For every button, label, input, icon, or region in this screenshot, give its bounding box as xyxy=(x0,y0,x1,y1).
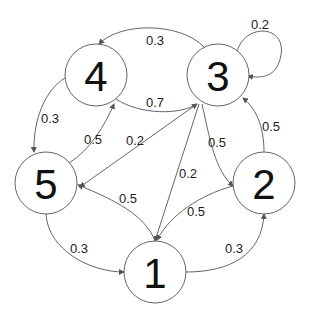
edge-weight-label: 0.7 xyxy=(146,95,164,110)
state-label: 5 xyxy=(34,161,57,208)
edge-weight-label: 0.3 xyxy=(41,111,59,126)
edge-weight-label: 0.2 xyxy=(126,133,144,148)
edge-weight-label: 0.3 xyxy=(70,241,88,256)
edge-2-to-3 xyxy=(243,98,264,152)
state-node-4: 4 xyxy=(65,44,127,106)
edge-weight-label: 0.5 xyxy=(187,204,205,219)
edge-weight-label: 0.3 xyxy=(146,33,164,48)
state-node-2: 2 xyxy=(233,152,295,214)
edge-weight-label: 0.3 xyxy=(225,241,243,256)
edge-weight-label: 0.5 xyxy=(262,119,280,134)
nodes-layer: 12345 xyxy=(15,44,295,303)
state-label: 3 xyxy=(206,53,229,100)
edge-weight-label: 0.5 xyxy=(119,191,137,206)
state-label: 1 xyxy=(143,250,166,297)
edge-weight-label: 0.2 xyxy=(179,166,197,181)
edge-1-to-5 xyxy=(78,185,155,241)
edge-weight-label: 0.2 xyxy=(251,17,269,32)
edge-weight-label: 0.5 xyxy=(84,132,102,147)
state-label: 2 xyxy=(252,161,275,208)
edge-weight-label: 0.5 xyxy=(208,135,226,150)
state-node-1: 1 xyxy=(124,241,186,303)
state-label: 4 xyxy=(84,53,107,100)
state-node-3: 3 xyxy=(187,44,249,106)
markov-chain-diagram: 12345 0.30.20.70.30.50.20.50.20.50.50.50… xyxy=(0,0,311,319)
state-node-5: 5 xyxy=(15,152,77,214)
